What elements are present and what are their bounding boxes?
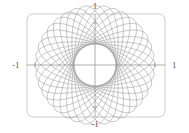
x-axis-tick-label-positive: 1 xyxy=(172,61,177,70)
parametric-plot-figure: 1 -1 -1 1 xyxy=(0,0,189,133)
plot-canvas xyxy=(0,0,189,133)
y-axis-tick-label-negative: -1 xyxy=(91,120,99,129)
y-axis-tick-label-positive: 1 xyxy=(93,2,98,11)
x-axis-tick-label-negative: -1 xyxy=(12,61,20,70)
